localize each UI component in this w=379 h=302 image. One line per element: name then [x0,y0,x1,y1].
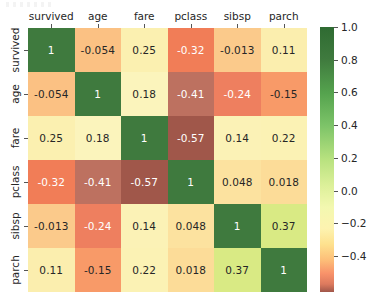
colorbar-tick-label-2: 0.6 [341,87,358,98]
correlation-heatmap-figure: survivedagefarepclasssibspparch survived… [0,0,379,302]
heatmap-cell-age-age: 1 [75,72,122,116]
heatmap-cell-pclass-survived: -0.32 [28,160,75,204]
y-tick-mark-survived [24,50,28,51]
x-tick-mark-fare [144,24,145,28]
y-tick-cell-fare: fare [4,116,26,160]
heatmap-cell-value: -0.32 [37,177,65,188]
y-tick-cell-pclass: pclass [4,160,26,204]
heatmap-cell-pclass-age: -0.41 [75,160,122,204]
heatmap-cell-value: -0.24 [223,89,251,100]
x-tick-mark-parch [284,24,285,28]
heatmap-cell-value: -0.57 [177,133,205,144]
heatmap-grid: 1-0.0540.25-0.32-0.0130.11-0.05410.18-0.… [28,28,307,292]
heatmap-cell-parch-age: -0.15 [75,248,122,292]
y-tick-cell-age: age [4,72,26,116]
heatmap-cell-value: -0.013 [220,45,254,56]
y-tick-mark-parch [24,270,28,271]
heatmap-cell-parch-parch: 1 [261,248,308,292]
capture-artifact [6,2,52,7]
colorbar-tick-label-0: 1.0 [341,22,358,33]
heatmap-cell-value: -0.054 [81,45,115,56]
x-tick-label-parch: parch [261,8,308,24]
y-tick-mark-pclass [24,182,28,183]
heatmap-cell-age-parch: -0.15 [261,72,308,116]
heatmap-cell-value: -0.41 [84,177,112,188]
heatmap-cell-parch-fare: 0.22 [121,248,168,292]
heatmap-cell-value: 1 [48,45,55,56]
heatmap-cell-value: -0.15 [270,89,298,100]
heatmap-cell-sibsp-parch: 0.37 [261,204,308,248]
heatmap-cell-parch-sibsp: 0.37 [214,248,261,292]
colorbar-tick-label-6: −0.2 [341,218,367,229]
colorbar-gradient [320,27,334,292]
y-tick-cell-sibsp: sibsp [4,204,26,248]
colorbar-tick-mark-7 [334,256,338,257]
colorbar-tick-mark-1 [334,60,338,61]
x-tick-label-survived: survived [28,8,75,24]
y-tick-label-survived: survived [10,28,21,73]
x-tick-label-pclass: pclass [168,8,215,24]
colorbar: 1.00.80.60.40.20.0−0.2−0.4 [320,27,334,292]
x-tick-label-sibsp: sibsp [214,8,261,24]
heatmap-cell-value: 1 [187,177,194,188]
heatmap-cell-survived-age: -0.054 [75,28,122,72]
heatmap-cell-value: 0.11 [39,265,63,276]
heatmap-cell-value: 0.048 [222,177,253,188]
heatmap-cell-survived-fare: 0.25 [121,28,168,72]
heatmap-cell-sibsp-survived: -0.013 [28,204,75,248]
x-tick-mark-sibsp [237,24,238,28]
heatmap-cell-age-fare: 0.18 [121,72,168,116]
colorbar-tick-mark-4 [334,158,338,159]
heatmap-cell-pclass-sibsp: 0.048 [214,160,261,204]
colorbar-tick-mark-6 [334,223,338,224]
heatmap-cell-survived-parch: 0.11 [261,28,308,72]
heatmap-cell-fare-survived: 0.25 [28,116,75,160]
heatmap-cell-pclass-fare: -0.57 [121,160,168,204]
heatmap-cell-value: -0.41 [177,89,205,100]
heatmap-cell-fare-parch: 0.22 [261,116,308,160]
heatmap-cell-survived-pclass: -0.32 [168,28,215,72]
heatmap-cell-value: 0.018 [268,177,299,188]
heatmap-cell-value: 0.37 [225,265,249,276]
heatmap-cell-value: 1 [280,265,287,276]
heatmap-cell-value: 0.18 [132,89,156,100]
heatmap-cell-sibsp-pclass: 0.048 [168,204,215,248]
heatmap-cell-age-sibsp: -0.24 [214,72,261,116]
heatmap-cell-value: 0.11 [272,45,296,56]
heatmap-cell-age-survived: -0.054 [28,72,75,116]
heatmap-cell-pclass-parch: 0.018 [261,160,308,204]
heatmap-cell-value: 0.14 [132,221,156,232]
heatmap-cell-value: -0.24 [84,221,112,232]
heatmap-cell-value: 0.048 [175,221,206,232]
heatmap-cell-fare-age: 0.18 [75,116,122,160]
heatmap-cell-survived-survived: 1 [28,28,75,72]
colorbar-tick-label-1: 0.8 [341,54,358,65]
colorbar-tick-mark-3 [334,125,338,126]
y-tick-cell-survived: survived [4,28,26,72]
heatmap-cell-value: 0.25 [39,133,63,144]
y-tick-label-sibsp: sibsp [10,212,21,239]
colorbar-tick-label-4: 0.2 [341,153,358,164]
heatmap-cell-value: -0.054 [34,89,68,100]
heatmap-cell-value: 0.25 [132,45,156,56]
heatmap-cell-value: -0.013 [34,221,68,232]
colorbar-tick-mark-5 [334,191,338,192]
heatmap-cell-survived-sibsp: -0.013 [214,28,261,72]
heatmap-cell-value: -0.15 [84,265,112,276]
colorbar-tick-mark-0 [334,27,338,28]
y-tick-mark-sibsp [24,226,28,227]
x-tick-mark-age [98,24,99,28]
heatmap-cell-value: 0.22 [272,133,296,144]
colorbar-tick-label-3: 0.4 [341,120,358,131]
colorbar-tick-label-5: 0.0 [341,185,358,196]
y-tick-cell-parch: parch [4,248,26,292]
y-tick-mark-age [24,94,28,95]
heatmap-cell-pclass-pclass: 1 [168,160,215,204]
y-tick-label-fare: fare [10,128,21,149]
heatmap-cell-value: 0.14 [225,133,249,144]
heatmap-cell-value: -0.32 [177,45,205,56]
heatmap-cell-fare-pclass: -0.57 [168,116,215,160]
y-tick-label-pclass: pclass [10,166,21,199]
heatmap-cell-sibsp-sibsp: 1 [214,204,261,248]
colorbar-tick-mark-2 [334,92,338,93]
